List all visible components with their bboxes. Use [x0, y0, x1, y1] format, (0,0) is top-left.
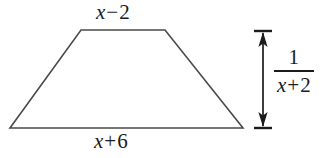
denominator-operator: +	[286, 73, 300, 97]
top-side-label: x−2	[96, 2, 130, 23]
top-label-constant: 2	[119, 0, 130, 24]
top-label-variable: x	[96, 0, 105, 24]
height-label: 1 x+2	[274, 47, 314, 96]
height-label-denominator: x+2	[274, 72, 314, 96]
height-label-numerator: 1	[274, 47, 314, 70]
top-label-operator: −	[105, 0, 119, 24]
trapezoid-shape	[10, 30, 243, 128]
denominator-constant: 2	[300, 73, 311, 97]
bottom-label-operator: +	[103, 129, 117, 153]
bottom-label-variable: x	[94, 129, 103, 153]
height-dimension-arrow	[254, 31, 272, 128]
denominator-variable: x	[277, 73, 286, 97]
bottom-side-label: x+6	[94, 131, 128, 152]
geometry-figure-canvas: x−2 x+6 1 x+2	[0, 0, 334, 158]
bottom-label-constant: 6	[117, 129, 128, 153]
